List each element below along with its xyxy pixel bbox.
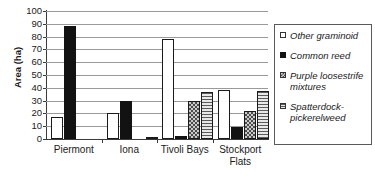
legend-item[interactable]: Purple loosestrife mixtures	[280, 70, 367, 92]
y-tick-label: 30	[2, 96, 42, 106]
chart-legend: Other graminoidCommon reedPurple loosest…	[274, 24, 372, 145]
bar-common-reed[interactable]	[64, 26, 76, 139]
bar-group	[46, 11, 102, 139]
bar-other-graminoid[interactable]	[218, 90, 230, 139]
legend-label: Purple loosestrife mixtures	[290, 70, 367, 92]
bar-common-reed[interactable]	[175, 136, 187, 139]
bar-group	[157, 11, 213, 139]
bar-other-graminoid[interactable]	[162, 39, 174, 139]
bar-purple-loosestrife-mixtures[interactable]	[188, 101, 200, 139]
x-tick-label-line: Stockport	[213, 144, 269, 156]
legend-label: Common reed	[290, 50, 350, 61]
y-tick-label: 90	[2, 19, 42, 29]
legend-item[interactable]: Common reed	[280, 50, 367, 61]
y-tick-label: 50	[2, 70, 42, 80]
legend-item[interactable]: Spatterdock-pickerelweed	[280, 101, 367, 123]
x-tick-mark	[102, 139, 103, 143]
x-tick-label-line: Flats	[213, 156, 269, 168]
bar-spatterdock-pickerelweed[interactable]	[201, 92, 213, 139]
bar-group	[213, 11, 269, 139]
x-tick-label-line: Piermont	[46, 144, 102, 156]
x-tick-label: Tivoli Bays	[157, 144, 213, 156]
bar-other-graminoid[interactable]	[51, 117, 63, 139]
y-tick-label: 70	[2, 45, 42, 55]
x-tick-mark	[157, 139, 158, 143]
x-tick-mark	[213, 139, 214, 143]
bar-chart-figure: Area (ha) 0102030405060708090100 Piermon…	[0, 0, 375, 177]
bar-spatterdock-pickerelweed[interactable]	[257, 91, 269, 139]
solid-black-swatch	[280, 52, 286, 58]
x-tick-label-line: Iona	[102, 144, 158, 156]
plot-area: 0102030405060708090100	[46, 11, 268, 139]
bar-common-reed[interactable]	[120, 101, 132, 139]
y-tick-label: 40	[2, 83, 42, 93]
bar-purple-loosestrife-mixtures[interactable]	[244, 111, 256, 139]
open-white-swatch	[280, 32, 286, 38]
horizontal-lines-gray-swatch	[280, 103, 286, 109]
bar-spatterdock-pickerelweed[interactable]	[146, 137, 158, 139]
y-axis-title: Area (ha)	[12, 13, 23, 123]
y-tick-label: 10	[2, 121, 42, 131]
bar-group	[102, 11, 158, 139]
y-tick-label: 60	[2, 57, 42, 67]
y-tick-label: 80	[2, 32, 42, 42]
y-tick-label: 20	[2, 109, 42, 119]
x-tick-label: StockportFlats	[213, 144, 269, 168]
legend-label: Spatterdock-pickerelweed	[290, 101, 367, 123]
x-tick-label: Iona	[102, 144, 158, 156]
x-tick-label: Piermont	[46, 144, 102, 156]
y-tick-label: 0	[2, 134, 42, 144]
x-tick-label-line: Tivoli Bays	[157, 144, 213, 156]
y-tick-mark	[43, 139, 46, 140]
legend-label: Other graminoid	[290, 30, 358, 41]
checkered-gray-swatch	[280, 72, 286, 78]
bar-other-graminoid[interactable]	[107, 113, 119, 139]
legend-item[interactable]: Other graminoid	[280, 30, 367, 41]
bar-common-reed[interactable]	[231, 127, 243, 139]
y-tick-label: 100	[2, 6, 42, 16]
